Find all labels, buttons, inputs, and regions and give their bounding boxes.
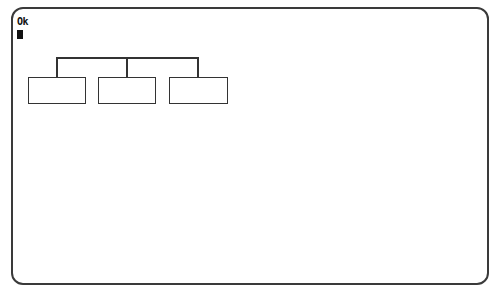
chart-box-1	[28, 77, 86, 104]
chart-box-2	[98, 77, 156, 104]
connector-drop-2	[126, 57, 128, 78]
prompt-text: Ok	[17, 17, 28, 27]
chart-box-3	[169, 77, 228, 104]
connector-drop-1	[56, 57, 58, 78]
connector-drop-3	[197, 57, 199, 78]
screen-frame	[11, 7, 489, 285]
text-cursor	[17, 30, 23, 39]
